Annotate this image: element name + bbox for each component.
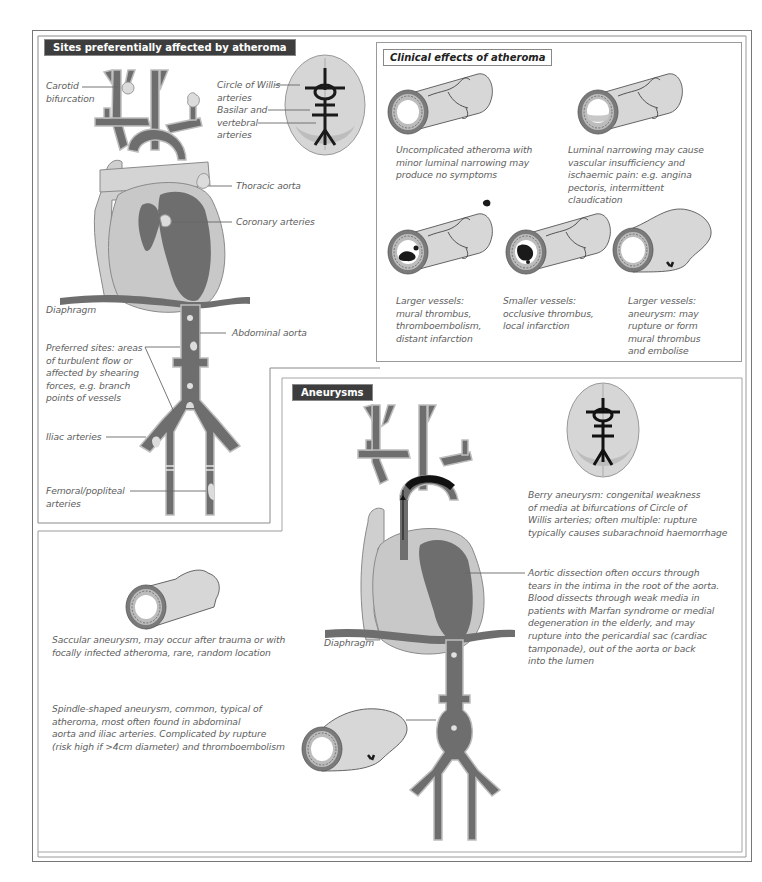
aortic-dissection-text: Aortic dissection often occurs throughte… <box>528 567 719 668</box>
label-diaphragm-aneurysms: Diaphragm <box>324 637 374 650</box>
brain-illustration-aneurysms <box>567 383 639 477</box>
saccular-aneurysm-text: Saccular aneurysm, may occur after traum… <box>52 634 285 659</box>
berry-aneurysm-text: Berry aneurysm: congenital weaknessof me… <box>528 489 727 539</box>
spindle-aneurysm-text: Spindle-shaped aneurysm, common, typical… <box>52 703 285 753</box>
